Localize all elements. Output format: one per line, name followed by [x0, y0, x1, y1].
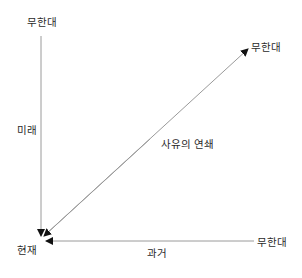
chain-of-thought-line-down: [44, 139, 150, 236]
time-diagram: 무한대 미래 현재 과거 무한대 무한대 사유의 연쇄: [0, 0, 302, 278]
top-infinity-label: 무한대: [27, 16, 57, 28]
diagonal-infinity-label: 무한대: [251, 41, 281, 53]
right-infinity-label: 무한대: [257, 236, 287, 248]
present-label: 현재: [17, 244, 37, 256]
chain-of-thought-label: 사유의 연쇄: [161, 138, 214, 150]
future-label: 미래: [17, 124, 37, 136]
past-label: 과거: [147, 247, 167, 259]
